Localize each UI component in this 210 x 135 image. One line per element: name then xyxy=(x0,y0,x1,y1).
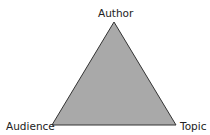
rhetorical-triangle-diagram: Author Audience Topic xyxy=(0,0,210,135)
vertex-label-author: Author xyxy=(98,8,133,19)
triangle xyxy=(52,22,176,125)
vertex-label-topic: Topic xyxy=(180,121,206,132)
triangle-shape xyxy=(0,0,210,135)
vertex-label-audience: Audience xyxy=(6,121,55,132)
